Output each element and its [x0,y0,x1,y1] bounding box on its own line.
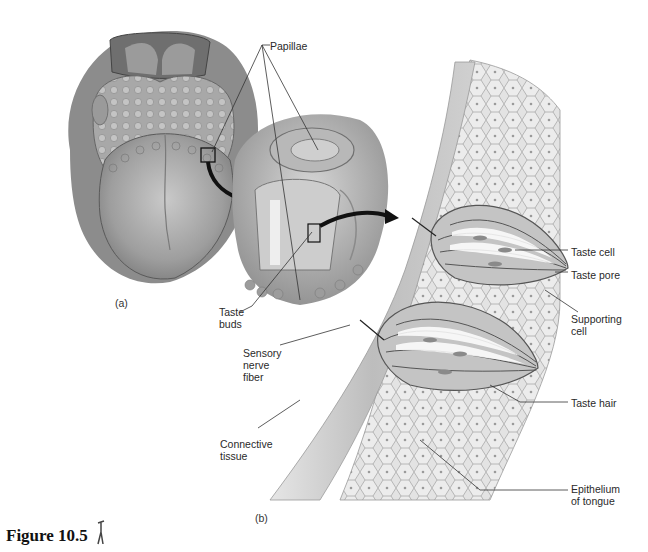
label-taste-buds: Taste buds [219,306,244,330]
panel-label-b: (b) [255,512,268,524]
label-taste-pore: Taste pore [571,269,620,281]
label-epithelium-of-tongue: Epithelium of tongue [571,483,620,507]
label-supporting-cell: Supporting cell [571,313,622,337]
stick-figure-icon [95,520,107,546]
taste-anatomy-illustration [0,0,648,552]
papilla-illustration [232,114,388,305]
panel-label-a: (a) [115,297,128,309]
label-taste-cell: Taste cell [571,246,615,258]
label-papillae: Papillae [270,40,307,52]
label-sensory-nerve-fiber: Sensory nerve fiber [243,347,282,383]
tongue-illustration [68,31,258,283]
label-taste-hair: Taste hair [571,397,617,409]
figure-caption: Figure 10.5 [6,526,88,546]
label-connective-tissue: Connective tissue [220,438,273,462]
